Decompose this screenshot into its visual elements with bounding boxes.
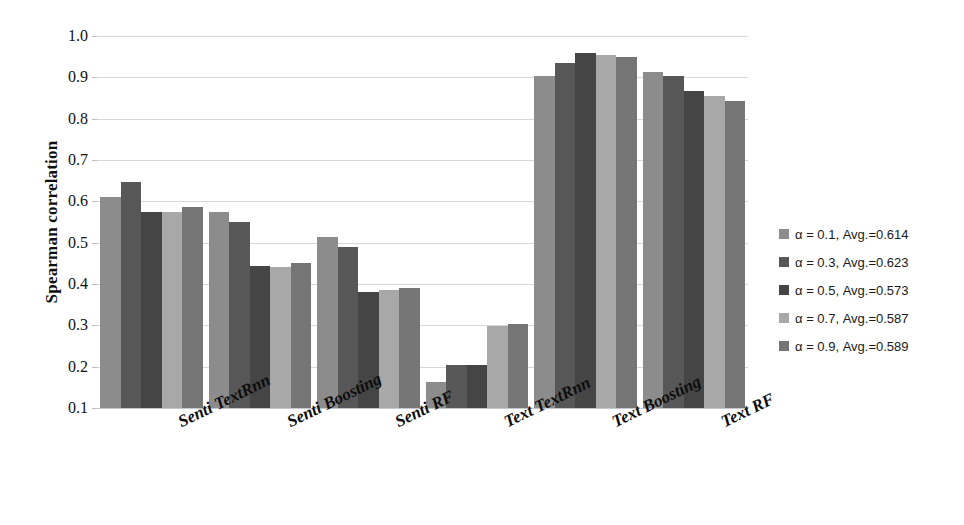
y-axis-tick-label: 0.2 [46, 358, 88, 376]
y-axis-tick-label: 0.8 [46, 110, 88, 128]
bar-group [531, 36, 640, 408]
legend-label: α = 0.5, Avg.=0.573 [795, 283, 909, 298]
bar-group [97, 36, 206, 408]
legend-item[interactable]: α = 0.7, Avg.=0.587 [779, 304, 959, 332]
bar[interactable] [534, 76, 555, 408]
bar[interactable] [162, 212, 183, 408]
bar[interactable] [616, 57, 637, 408]
spearman-correlation-bar-chart: Spearman correlation 0.10.20.30.40.50.60… [0, 0, 964, 525]
y-axis-tick-label: 0.9 [46, 68, 88, 86]
bar-group [423, 36, 532, 408]
bar[interactable] [317, 237, 338, 408]
legend-swatch-icon [779, 257, 789, 267]
bar[interactable] [209, 212, 230, 408]
bar[interactable] [575, 53, 596, 408]
bar[interactable] [141, 212, 162, 408]
legend-item[interactable]: α = 0.3, Avg.=0.623 [779, 248, 959, 276]
plot-area [97, 36, 748, 408]
bar[interactable] [100, 197, 121, 408]
bar[interactable] [663, 76, 684, 408]
legend-label: α = 0.1, Avg.=0.614 [795, 227, 909, 242]
y-axis-tick-label: 1.0 [46, 27, 88, 45]
y-axis-tick-label: 0.6 [46, 192, 88, 210]
y-axis-tick-label: 0.3 [46, 316, 88, 334]
bar[interactable] [643, 72, 664, 408]
bar-groups [97, 36, 748, 408]
legend-swatch-icon [779, 341, 789, 351]
legend-label: α = 0.7, Avg.=0.587 [795, 311, 909, 326]
legend-swatch-icon [779, 285, 789, 295]
bar[interactable] [684, 91, 705, 408]
y-axis-tick-label: 0.5 [46, 234, 88, 252]
y-axis-tick-label: 0.4 [46, 275, 88, 293]
y-axis-tick-labels: 0.10.20.30.40.50.60.70.80.91.0 [46, 0, 88, 525]
legend-swatch-icon [779, 229, 789, 239]
bar[interactable] [379, 290, 400, 408]
bar[interactable] [704, 96, 725, 408]
bar[interactable] [399, 288, 420, 408]
legend-label: α = 0.3, Avg.=0.623 [795, 255, 909, 270]
bar[interactable] [725, 101, 746, 408]
bar-group [206, 36, 315, 408]
y-axis-tick-label: 0.1 [46, 399, 88, 417]
legend: α = 0.1, Avg.=0.614α = 0.3, Avg.=0.623α … [779, 220, 959, 360]
y-axis-tick-label: 0.7 [46, 151, 88, 169]
legend-item[interactable]: α = 0.1, Avg.=0.614 [779, 220, 959, 248]
legend-item[interactable]: α = 0.9, Avg.=0.589 [779, 332, 959, 360]
legend-swatch-icon [779, 313, 789, 323]
bar[interactable] [121, 182, 142, 409]
bar-group [314, 36, 423, 408]
bar[interactable] [555, 63, 576, 408]
bar[interactable] [182, 207, 203, 408]
bar[interactable] [508, 324, 529, 408]
bar[interactable] [487, 326, 508, 408]
x-axis-category-labels: Senti TextRnnSenti BoostingSenti RFText … [97, 408, 748, 518]
legend-item[interactable]: α = 0.5, Avg.=0.573 [779, 276, 959, 304]
bar[interactable] [596, 55, 617, 408]
bar[interactable] [291, 263, 312, 408]
legend-label: α = 0.9, Avg.=0.589 [795, 339, 909, 354]
bar-group [640, 36, 749, 408]
bar[interactable] [467, 365, 488, 408]
